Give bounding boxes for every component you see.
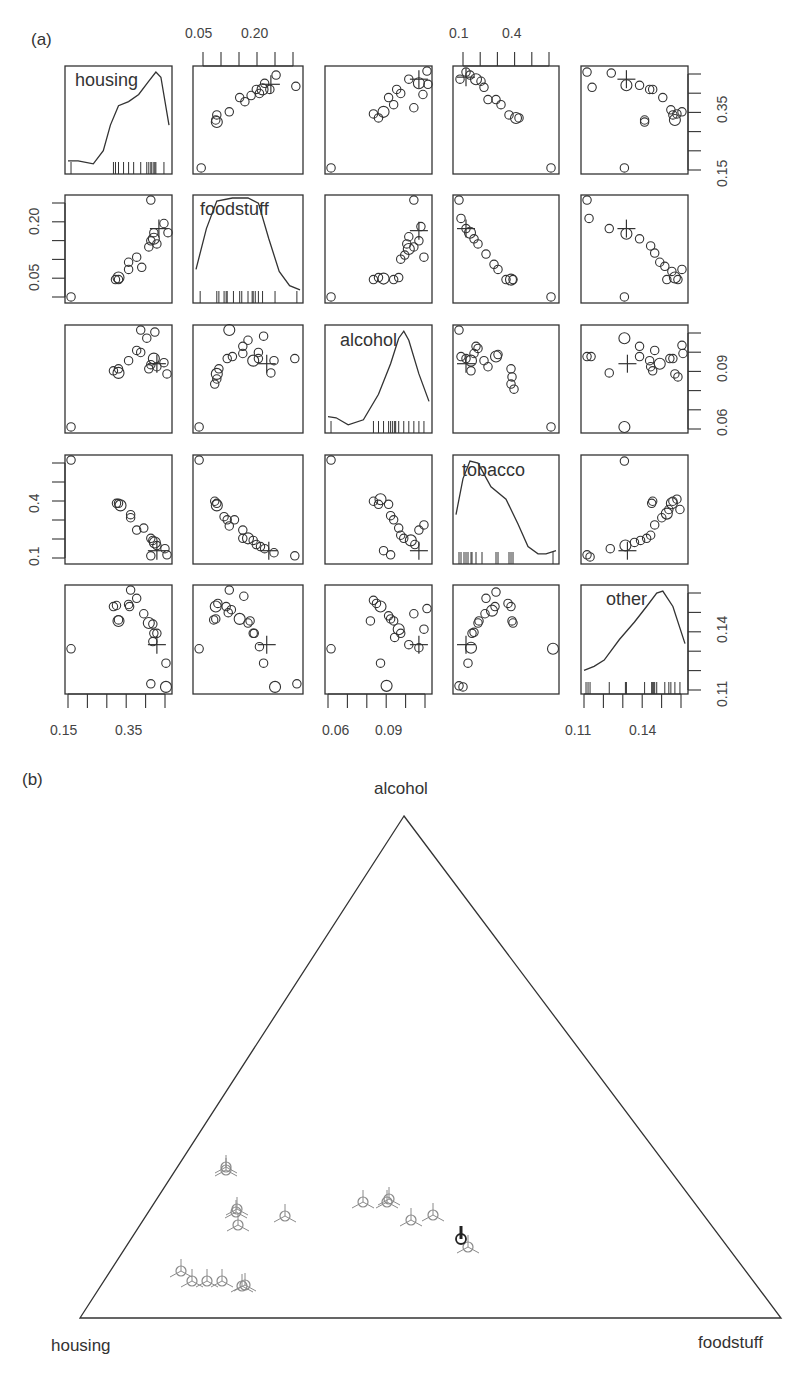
diag-label-foodstuff: foodstuff xyxy=(200,199,269,220)
ternary-label-foodstuff: foodstuff xyxy=(698,1333,763,1353)
bottom-tick-alcohol-0: 0.06 xyxy=(322,722,349,738)
bottom-tick-other-1: 0.14 xyxy=(629,722,656,738)
left-tick-tobacco-0: 0.1 xyxy=(26,547,42,566)
top-tick-foodstuff-1: 0.20 xyxy=(241,25,268,41)
right-tick-other-0: 0.11 xyxy=(714,681,730,707)
diag-label-housing: housing xyxy=(75,70,138,91)
left-tick-foodstuff-1: 0.20 xyxy=(26,208,42,235)
bottom-tick-alcohol-1: 0.09 xyxy=(375,722,402,738)
diag-label-other: other xyxy=(606,589,647,610)
right-tick-housing-0: 0.15 xyxy=(714,160,730,187)
right-tick-alcohol-1: 0.09 xyxy=(714,355,730,382)
left-tick-tobacco-1: 0.4 xyxy=(26,494,42,513)
bottom-tick-housing-0: 0.15 xyxy=(50,722,77,738)
right-tick-alcohol-0: 0.06 xyxy=(714,409,730,436)
bottom-tick-other-0: 0.11 xyxy=(565,722,591,738)
top-tick-tobacco-0: 0.1 xyxy=(449,25,468,41)
panel-b-label: (b) xyxy=(22,770,43,790)
right-tick-housing-1: 0.35 xyxy=(714,96,730,123)
right-tick-other-1: 0.14 xyxy=(714,616,730,643)
top-tick-tobacco-1: 0.4 xyxy=(502,25,521,41)
diag-label-tobacco: tobacco xyxy=(462,460,525,481)
top-tick-foodstuff-0: 0.05 xyxy=(185,25,212,41)
ternary-label-housing: housing xyxy=(51,1336,111,1356)
bottom-tick-housing-1: 0.35 xyxy=(115,722,142,738)
scatterplot-matrix xyxy=(0,0,806,760)
ternary-label-alcohol: alcohol xyxy=(374,779,428,799)
left-tick-foodstuff-0: 0.05 xyxy=(26,264,42,291)
diag-label-alcohol: alcohol xyxy=(340,330,397,351)
